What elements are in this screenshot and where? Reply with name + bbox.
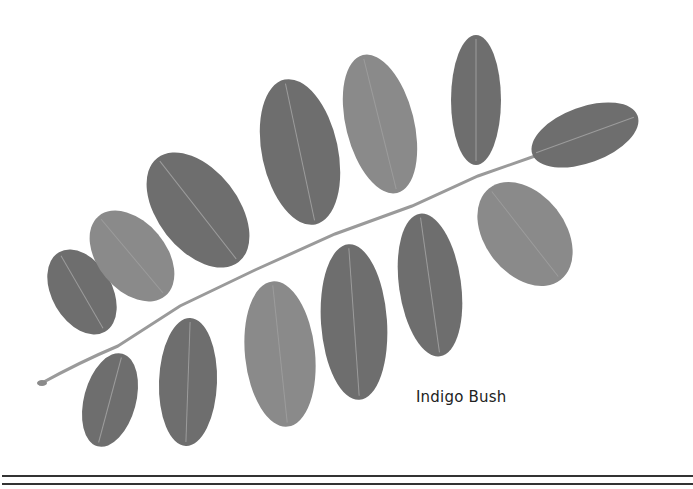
divider-rule [2, 475, 693, 477]
leaflet [458, 164, 592, 305]
leaflet [523, 90, 647, 181]
leaf-illustration [0, 0, 693, 489]
caption: Indigo Bush [416, 388, 506, 406]
leaflet [330, 47, 430, 201]
leaflet [389, 209, 470, 360]
leaflets [33, 35, 647, 453]
leaflet [316, 242, 393, 402]
leaflet [238, 278, 323, 431]
divider-rule [2, 483, 693, 485]
leaflet [157, 317, 219, 447]
leaflet [247, 72, 352, 233]
leaflet [451, 35, 501, 165]
